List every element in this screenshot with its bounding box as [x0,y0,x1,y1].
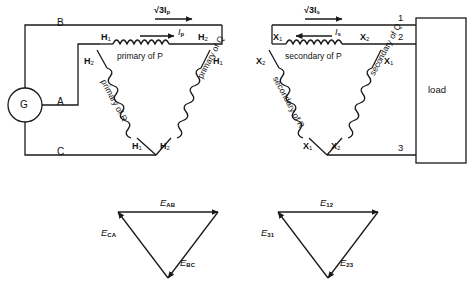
line-c-label: C [57,147,64,157]
line-b-label: B [57,18,64,28]
line-a-conductor [42,44,100,105]
primary-terminal-top-right: H2 [198,33,208,42]
phasor-ebc-label: EBC [180,258,195,268]
secondary-terminal-top-right: X2 [360,33,369,42]
h-sub: 1 [139,145,142,151]
primary-p-coil [113,40,169,44]
primary-q-coil [177,68,201,138]
x-sub: 1 [309,145,312,151]
secondary-terminal-bottom-left: X1 [303,142,312,151]
primary-terminal-top-left: H1 [101,33,111,42]
line-a-label: A [57,97,64,107]
primary-terminal-bottom-left: H1 [132,142,142,151]
e-sub: CA [107,232,116,238]
x-sub: 2 [366,36,369,42]
secondary-terminal-top-left: X1 [273,33,282,42]
secondary-p-coil [286,40,342,44]
e-sub: 12 [326,202,333,208]
primary-line-current-label: √3Ip [154,6,170,15]
primary-line-current-sub: p [166,9,170,15]
x-sub: 2 [262,60,265,66]
e-sub: BC [186,262,195,268]
phasor-e31-vector [278,212,328,278]
h-sub: 2 [91,60,94,66]
secondary-p-winding-label: secondary of P [285,52,342,61]
primary-terminal-left: H2 [84,57,94,66]
x-sub: 1 [279,36,282,42]
e-sub: AB [166,202,175,208]
secondary-terminal-left: X2 [256,57,265,66]
secondary-line-current-label: √3Is [304,6,320,15]
primary-phase-current-sub: p [181,31,185,37]
phasor-e12-label: E12 [320,198,333,208]
e-sub: 23 [346,262,353,268]
e-sub: 31 [267,232,274,238]
h-sub: 2 [205,36,208,42]
primary-phase-current-label: Ip [178,28,184,37]
primary-p-winding-label: primary of P [117,52,163,61]
secondary-q-coil [348,68,372,138]
load-label: load [428,85,446,95]
secondary-line-current-text: √3I [304,5,316,15]
load-terminal-2-label: 2 [398,32,403,42]
secondary-phase-current-label: Is [335,28,341,37]
secondary-phase-current-sub: s [338,31,341,37]
x-sub: 2 [337,145,340,151]
load-terminal-1-label: 1 [398,13,403,23]
primary-line-current-text: √3I [154,5,166,15]
h-sub: 2 [167,145,170,151]
h-sub: 1 [108,36,111,42]
transformer-connection-diagram: G B A C √3Ip Ip H1 H2 H2 H1 H1 H2 primar… [0,0,475,291]
primary-r-lead-top [97,50,107,68]
x-sub: 1 [390,60,393,66]
secondary-terminal-bottom-right: X2 [331,142,340,151]
phasor-eab-label: EAB [160,198,175,208]
diagram-canvas [0,0,475,291]
phasor-ebc-vector [168,212,218,278]
phasor-eca-vector [118,212,168,278]
phasor-e23-vector [328,212,378,278]
generator-label: G [20,100,28,110]
secondary-r-lead-top [269,50,279,68]
secondary-line-current-sub: s [316,9,319,15]
phasor-e31-label: E31 [261,228,274,238]
phasor-eca-label: ECA [101,228,116,238]
load-terminal-3-label: 3 [398,143,403,153]
primary-terminal-bottom-right: H2 [160,142,170,151]
phasor-e23-label: E23 [340,258,353,268]
h-sub: 1 [220,60,223,66]
